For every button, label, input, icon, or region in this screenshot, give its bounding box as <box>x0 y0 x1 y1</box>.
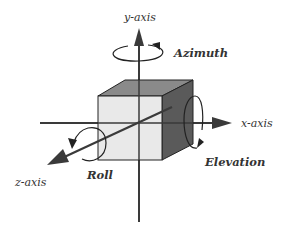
y-axis-label: y-axis <box>123 11 156 24</box>
z-axis-label: z-axis <box>14 176 47 189</box>
elevation-arrowhead <box>197 138 204 148</box>
rotation-axes-diagram: y-axis Azimuth x-axis Elevation Roll z-a… <box>0 0 287 234</box>
cube-front-face <box>98 96 162 160</box>
elevation-label: Elevation <box>204 155 265 169</box>
azimuth-label: Azimuth <box>173 46 228 60</box>
z-axis-arrowhead <box>47 149 69 165</box>
x-axis-arrowhead <box>212 117 232 129</box>
x-axis-label: x-axis <box>241 117 273 130</box>
roll-label: Roll <box>86 168 114 182</box>
y-axis-arrowhead <box>134 28 144 46</box>
roll-arrowhead <box>68 138 77 149</box>
